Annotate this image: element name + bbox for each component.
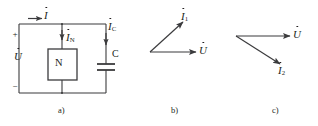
network-current-label: IN <box>66 32 75 44</box>
phasor-dot-icon <box>296 26 298 28</box>
phasor-c-current-subscript: 2 <box>282 69 285 76</box>
caption-panel-b: b) <box>171 105 178 115</box>
polarity-minus-sign: − <box>12 82 18 91</box>
phasor-c-current-vector <box>236 36 280 64</box>
input-current-label: I <box>44 10 48 21</box>
phasor-dot-icon <box>182 8 184 10</box>
phasor-b-current-label: I1 <box>181 11 188 23</box>
figure-container: + − U I IN N IC C I1 U U I2 a) b) c) <box>0 0 318 126</box>
phasor-dot-icon <box>17 48 19 50</box>
phasor-b-current-subscript: 1 <box>185 15 188 22</box>
capacitor-label: C <box>112 49 119 59</box>
phasor-diagram-c <box>236 36 290 64</box>
phasor-dot-icon <box>45 7 47 9</box>
phasor-c-current-label: I2 <box>278 65 285 77</box>
polarity-plus-sign: + <box>12 30 18 39</box>
phasor-b-voltage-label: U <box>199 45 207 56</box>
caption-panel-a: a) <box>58 105 65 115</box>
phasor-dot-icon <box>67 29 69 31</box>
node-top-network <box>61 23 63 25</box>
network-current-subscript: N <box>70 36 75 43</box>
phasor-dot-icon <box>109 18 111 20</box>
phasor-dot-icon <box>279 62 281 64</box>
phasor-c-voltage-label: U <box>293 29 301 40</box>
node-bottom-network <box>61 92 63 94</box>
phasor-b-current-vector <box>150 22 183 52</box>
phasor-dot-icon <box>202 42 204 44</box>
source-voltage-label: U <box>14 51 22 62</box>
capacitor-current-subscript: C <box>112 25 117 32</box>
caption-panel-c: c) <box>272 105 279 115</box>
phasor-diagram-b <box>150 22 196 52</box>
capacitor-current-label: IC <box>108 21 116 33</box>
network-block-label: N <box>55 58 63 69</box>
